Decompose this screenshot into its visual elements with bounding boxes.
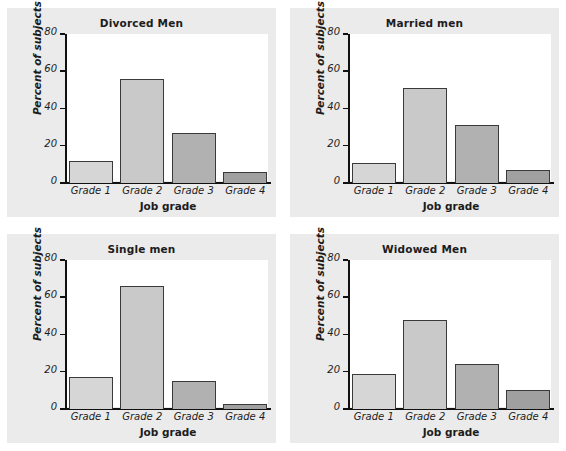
x-tick-labels: Grade 1Grade 2Grade 3Grade 4 [65,411,271,422]
bar[interactable] [223,172,267,183]
bar-slot [348,34,400,183]
y-tick: 60 [343,296,348,298]
y-axis-label: Percent of subjects [314,224,326,344]
y-tick: 20 [343,371,348,373]
x-axis-label: Job grade [65,426,271,438]
bar-slot [168,260,220,409]
y-tick-label: 40 [327,327,340,338]
bar-slot [503,260,555,409]
y-tick-label: 60 [327,63,340,74]
x-tick-label: Grade 3 [168,185,220,196]
y-tick: 80 [60,259,65,261]
y-tick: 40 [343,334,348,336]
y-tick-label: 20 [44,364,57,375]
x-tick-label: Grade 2 [117,411,169,422]
x-tick-label: Grade 1 [65,185,117,196]
y-tick-label: 40 [327,101,340,112]
bar[interactable] [223,404,267,409]
bar[interactable] [352,163,396,183]
y-tick-label: 0 [334,401,340,412]
bar-slot [117,260,169,409]
chart-panel-single-men: Single men Percent of subjects Grade 1Gr… [7,234,276,443]
y-tick-label: 20 [327,138,340,149]
figure-panel-grid: Divorced Men Percent of subjects Grade 1… [0,0,566,451]
y-tick: 60 [60,296,65,298]
y-axis-label: Percent of subjects [31,0,43,118]
x-axis-label: Job grade [348,200,554,212]
x-tick-label: Grade 1 [65,411,117,422]
y-tick-label: 60 [44,289,57,300]
y-tick-label: 0 [334,175,340,186]
x-tick-label: Grade 4 [220,411,272,422]
y-tick: 0 [60,408,65,410]
bar-series [65,260,271,409]
bar[interactable] [403,88,447,183]
y-tick: 40 [60,334,65,336]
x-tick-label: Grade 4 [503,411,555,422]
y-tick-label: 80 [327,252,340,263]
y-tick-label: 80 [44,252,57,263]
y-tick: 20 [343,145,348,147]
chart-panel-married-men: Married men Percent of subjects Grade 1G… [290,8,559,217]
x-tick-label: Grade 3 [168,411,220,422]
x-tick-label: Grade 4 [503,185,555,196]
bar-series [65,34,271,183]
bar-slot [168,34,220,183]
x-tick-label: Grade 2 [400,185,452,196]
bar-slot [65,34,117,183]
y-tick: 80 [60,33,65,35]
x-tick-label: Grade 1 [348,411,400,422]
bar-slot [117,34,169,183]
y-tick: 20 [60,145,65,147]
y-tick: 40 [343,108,348,110]
y-tick-label: 60 [44,63,57,74]
bar[interactable] [455,364,499,409]
chart-panel-divorced-men: Divorced Men Percent of subjects Grade 1… [7,8,276,217]
bar-slot [220,34,272,183]
y-tick: 40 [60,108,65,110]
bar[interactable] [506,170,550,183]
y-axis-label: Percent of subjects [31,224,43,344]
x-tick-labels: Grade 1Grade 2Grade 3Grade 4 [348,185,554,196]
bar[interactable] [172,381,216,409]
bar-slot [220,260,272,409]
y-tick: 80 [343,259,348,261]
y-tick: 60 [343,70,348,72]
bar[interactable] [455,125,499,183]
bar[interactable] [120,286,164,409]
bar[interactable] [120,79,164,183]
x-axis-label: Job grade [348,426,554,438]
bar[interactable] [69,161,113,183]
y-tick-label: 20 [327,364,340,375]
y-tick-label: 80 [327,26,340,37]
y-tick: 20 [60,371,65,373]
y-tick-label: 60 [327,289,340,300]
y-tick: 0 [343,408,348,410]
y-tick-label: 0 [51,175,57,186]
x-tick-label: Grade 2 [400,411,452,422]
bar[interactable] [506,390,550,409]
bar-slot [400,34,452,183]
bar[interactable] [69,377,113,409]
y-tick-label: 80 [44,26,57,37]
y-axis-label: Percent of subjects [314,0,326,118]
y-tick: 0 [60,182,65,184]
x-tick-label: Grade 3 [451,411,503,422]
bar-slot [451,260,503,409]
x-tick-labels: Grade 1Grade 2Grade 3Grade 4 [348,411,554,422]
y-tick-label: 40 [44,327,57,338]
bar-series [348,260,554,409]
bar[interactable] [172,133,216,183]
y-tick: 60 [60,70,65,72]
bar[interactable] [352,374,396,409]
bar-slot [65,260,117,409]
bar-slot [348,260,400,409]
bar-slot [400,260,452,409]
bar-slot [503,34,555,183]
bar-slot [451,34,503,183]
x-tick-label: Grade 3 [451,185,503,196]
bar[interactable] [403,320,447,409]
y-tick-label: 40 [44,101,57,112]
bar-series [348,34,554,183]
y-tick-label: 0 [51,401,57,412]
